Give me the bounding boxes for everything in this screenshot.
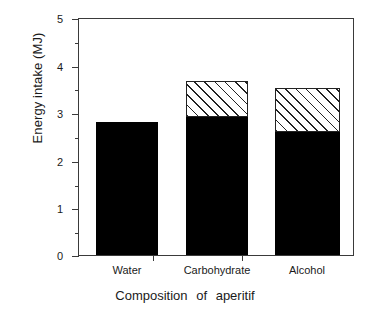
y-tick-label-0: 0 bbox=[37, 251, 63, 262]
bar-carbohydrate[interactable] bbox=[186, 81, 248, 255]
x-tick-2 bbox=[242, 255, 243, 261]
y-tick-minor-2-5 bbox=[75, 138, 79, 139]
y-tick-1: 1 bbox=[72, 209, 79, 210]
y-tick-label-1: 1 bbox=[37, 204, 63, 215]
bar-water[interactable] bbox=[96, 122, 158, 255]
x-tick-label-water: Water bbox=[113, 264, 142, 276]
y-tick-4: 4 bbox=[72, 67, 79, 68]
bar-alcohol-hatched-segment bbox=[275, 88, 340, 133]
bar-carbohydrate-hatched-segment bbox=[186, 81, 248, 117]
y-tick-3: 3 bbox=[72, 114, 79, 115]
y-tick-label-3: 3 bbox=[37, 109, 63, 120]
x-axis-title: Composition of aperitif bbox=[0, 288, 370, 304]
y-tick-0: 0 bbox=[72, 256, 79, 257]
y-tick-minor-1-5 bbox=[75, 186, 79, 187]
bar-water-solid-segment bbox=[96, 122, 158, 255]
x-tick-1 bbox=[153, 255, 154, 261]
x-tick-label-alcohol: Alcohol bbox=[289, 264, 325, 276]
bar-alcohol-solid-segment bbox=[275, 132, 340, 255]
y-tick-minor-3-5 bbox=[75, 90, 79, 91]
bar-alcohol[interactable] bbox=[275, 88, 340, 256]
plot-area: 5 4 3 2 1 0 Water bbox=[78, 18, 354, 256]
y-tick-label-2: 2 bbox=[37, 157, 63, 168]
figure: Energy intake (MJ) 5 4 3 2 1 0 bbox=[0, 0, 370, 318]
y-tick-label-5: 5 bbox=[37, 14, 63, 25]
y-tick-minor-4-5 bbox=[75, 43, 79, 44]
bar-carbohydrate-solid-segment bbox=[186, 117, 248, 255]
y-tick-5: 5 bbox=[72, 19, 79, 20]
y-tick-minor-0-5 bbox=[75, 233, 79, 234]
x-tick-label-carbohydrate: Carbohydrate bbox=[184, 264, 251, 276]
y-tick-label-4: 4 bbox=[37, 62, 63, 73]
y-tick-2: 2 bbox=[72, 162, 79, 163]
